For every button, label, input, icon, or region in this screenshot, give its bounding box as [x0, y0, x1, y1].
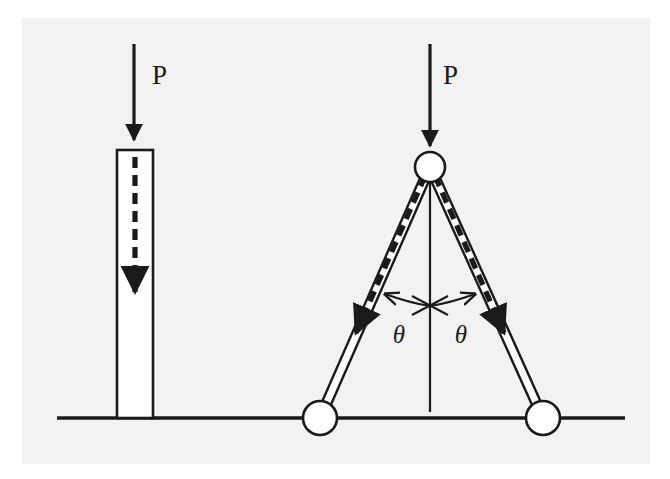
load-label-right: P [443, 60, 458, 90]
two-bar-truss-case: P θ θ [303, 44, 560, 435]
angle-label-right: θ [455, 321, 467, 348]
figure-root: P [0, 0, 670, 479]
base-pin-joint-left [303, 401, 337, 435]
base-pin-joint-right [526, 401, 560, 435]
apex-pin-joint [415, 152, 445, 182]
angle-arc-right [430, 294, 475, 306]
angle-label-left: θ [393, 321, 405, 348]
angle-arc-left [385, 294, 430, 306]
straight-column-case: P [117, 44, 167, 418]
load-label-left: P [152, 60, 167, 90]
engineering-diagram: P [0, 0, 670, 479]
